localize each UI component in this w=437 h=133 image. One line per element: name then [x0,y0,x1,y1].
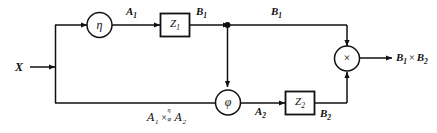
edge-label-a1-subscript: 1 [133,11,137,20]
output-label-operator: × [407,52,417,63]
phi-node-label: φ [217,96,239,108]
eta-node-label: η [89,19,110,31]
annotation-operator: × [161,112,167,123]
input-label-x: X [15,61,23,73]
output-label-b2-subscript: 2 [424,57,428,66]
multiplier-node-label: × [337,52,357,64]
output-label-b2-letter: B [417,51,424,63]
z1-block-label: Z1 [160,18,190,32]
annotation-operator-stack: ×ηφ [158,111,169,123]
diagram-vector-layer [0,0,437,133]
edge-label-b1-left-subscript: 1 [203,11,207,20]
junction-dot [225,22,231,28]
edge-label-b2-subscript: 2 [327,113,331,122]
z2-block-label: Z2 [285,96,315,110]
annotation-operator-subscript: φ [167,115,171,122]
edge-label-b1-right: B1 [271,6,282,20]
diagram-canvas: η φ × Z1 Z2 X A1 B1 B1 A2 B2 B1×B2 A1×ηφ… [0,0,437,133]
output-label: B1×B2 [396,52,428,66]
algebra-annotation: A1×ηφA2 [147,111,186,126]
annotation-left-operand: A [147,111,155,124]
edge-label-a1: A1 [126,6,137,20]
edge-label-b2: B2 [320,108,331,122]
annotation-operator-superscript: η [167,106,170,113]
annotation-right-subscript: 2 [182,118,186,126]
edge-label-a2-subscript: 2 [262,111,266,120]
z1-subscript: 1 [176,23,180,32]
edge-label-b1-left: B1 [196,6,207,20]
edge-label-a2: A2 [255,106,266,120]
z2-subscript: 2 [301,101,305,110]
edge-label-b1-right-subscript: 1 [278,11,282,20]
